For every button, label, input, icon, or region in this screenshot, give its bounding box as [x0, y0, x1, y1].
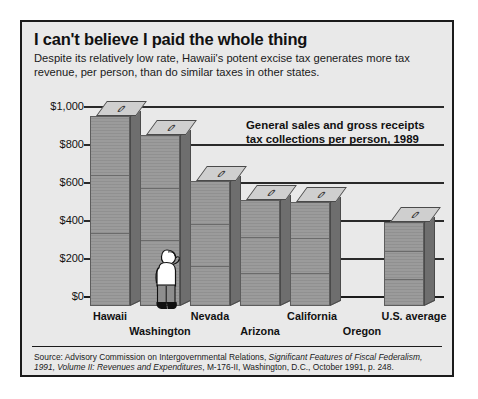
bar-face: [240, 200, 280, 306]
source-part1: Source: Advisory Commission on Intergove…: [34, 352, 269, 362]
bar-arizona: 0: [240, 200, 280, 306]
chart-panel: I can't believe I paid the whole thing D…: [20, 20, 454, 377]
bill-glyph: 0: [215, 169, 227, 179]
source-divider: [32, 346, 442, 347]
x-label-nevada: Nevada: [191, 310, 229, 322]
bill-glyph: 0: [115, 104, 127, 114]
bar-face: [384, 222, 424, 306]
y-tick-600: $600: [60, 176, 84, 188]
x-label-oregon: Oregon: [343, 325, 381, 337]
bar-nevada: 0: [190, 181, 230, 306]
bar-side: [424, 217, 435, 306]
cartoon-man-icon: [147, 246, 185, 312]
bar-side: [330, 197, 341, 306]
bar-us-average: 0: [384, 222, 424, 306]
plot-area: $1,000 $800 $600 $400 $200 $0: [34, 106, 444, 306]
x-label-washington: Washington: [129, 325, 190, 337]
bar-hawaii: 0: [90, 116, 130, 306]
source-note: Source: Advisory Commission on Intergove…: [34, 352, 440, 373]
x-axis-labels: Hawaii Washington Nevada Arizona Califor…: [84, 310, 444, 344]
chart-subtitle: Despite its relatively low rate, Hawaii'…: [34, 52, 442, 79]
y-tick-200: $200: [60, 252, 84, 264]
bill-glyph: 0: [315, 190, 327, 200]
chart-caption: General sales and gross receipts tax col…: [246, 118, 442, 146]
x-label-us-average: U.S. average: [382, 310, 447, 322]
source-part2: , M-176-II, Washington, D.C., October 19…: [202, 362, 393, 372]
x-label-hawaii: Hawaii: [93, 310, 127, 322]
bar-face: [90, 116, 130, 306]
bar-face: [290, 202, 330, 306]
chart-title: I can't believe I paid the whole thing: [34, 30, 307, 49]
bill-glyph: 0: [409, 210, 421, 220]
y-axis-labels: $1,000 $800 $600 $400 $200 $0: [34, 106, 86, 306]
x-label-california: California: [287, 310, 337, 322]
bill-glyph: 0: [165, 123, 177, 133]
y-tick-400: $400: [60, 214, 84, 226]
bar-california: 0: [290, 202, 330, 306]
y-tick-0: $0: [72, 290, 84, 302]
y-tick-800: $800: [60, 138, 84, 150]
bar-face: [190, 181, 230, 306]
y-tick-1000: $1,000: [50, 100, 84, 112]
bill-glyph: 0: [265, 188, 277, 198]
x-label-arizona: Arizona: [240, 325, 280, 337]
